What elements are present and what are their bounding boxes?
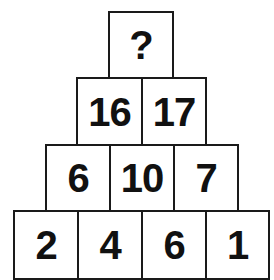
pyramid-cell: 10 <box>109 144 175 212</box>
pyramid-cell: 1 <box>205 210 270 280</box>
pyramid-cell: 17 <box>141 77 207 146</box>
pyramid-cell: 16 <box>76 77 143 146</box>
pyramid-cell-unknown: ? <box>108 11 174 79</box>
pyramid-cell: 6 <box>141 210 207 280</box>
pyramid-cell: 7 <box>173 144 239 212</box>
pyramid-cell: 6 <box>45 144 111 212</box>
pyramid-cell: 2 <box>13 210 79 280</box>
pyramid-cell: 4 <box>77 210 143 280</box>
